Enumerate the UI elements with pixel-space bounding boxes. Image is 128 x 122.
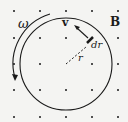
dr-label: dr — [91, 39, 103, 50]
velocity-label: v — [61, 16, 69, 29]
omega-label: ω — [18, 16, 29, 31]
radius-label: r — [78, 52, 84, 63]
diagram-svg: ω v B dr r — [0, 0, 128, 122]
radius-line — [66, 47, 86, 64]
field-label: B — [110, 15, 120, 29]
rotating-disk-diagram: ω v B dr r — [0, 0, 128, 122]
velocity-arrow-icon — [77, 28, 88, 38]
rotation-arrowhead-icon — [12, 74, 18, 81]
